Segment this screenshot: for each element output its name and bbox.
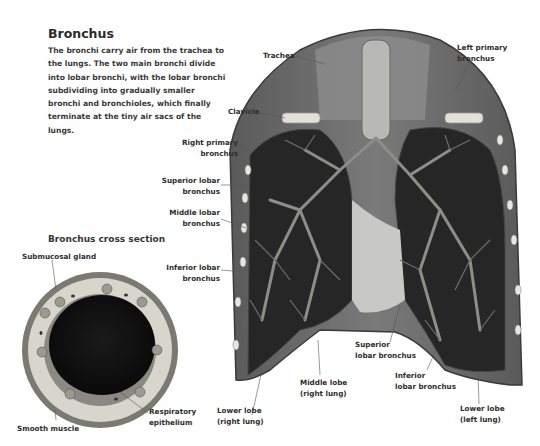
label-trachea: Trachea	[263, 51, 295, 62]
label-lower-lobe-right: Lower lobe (right lung)	[217, 406, 264, 427]
label-inferior-lobar-bronchus-right: Inferior lobar bronchus	[154, 263, 220, 284]
label-inferior-lobar-bronchus-left: Inferior lobar bronchus	[395, 371, 456, 392]
label-clavicle: Clavicle	[228, 107, 259, 118]
label-lower-lobe-left: Lower lobe (left lung)	[460, 404, 505, 425]
label-middle-lobar-bronchus: Middle lobar bronchus	[154, 208, 220, 229]
label-smooth-muscle: Smooth muscle	[17, 424, 79, 435]
bronchus-cross-section	[22, 272, 178, 428]
label-submucosal-gland: Submucosal gland	[22, 252, 96, 263]
cross-section-title: Bronchus cross section	[48, 234, 165, 244]
description-text: The bronchi carry air from the trachea t…	[48, 44, 226, 137]
page-title: Bronchus	[48, 26, 114, 41]
label-right-primary-bronchus: Right primary bronchus	[172, 138, 238, 159]
label-left-primary-bronchus: Left primary bronchus	[457, 43, 507, 64]
label-middle-lobe-right: Middle lobe (right lung)	[300, 378, 347, 399]
chest-body	[230, 30, 522, 385]
label-superior-lobar-bronchus-right: Superior lobar bronchus	[154, 176, 220, 197]
label-respiratory-epithelium: Respiratory epithelium	[149, 407, 196, 428]
label-superior-lobar-bronchus-left: Superior lobar bronchus	[355, 340, 416, 361]
